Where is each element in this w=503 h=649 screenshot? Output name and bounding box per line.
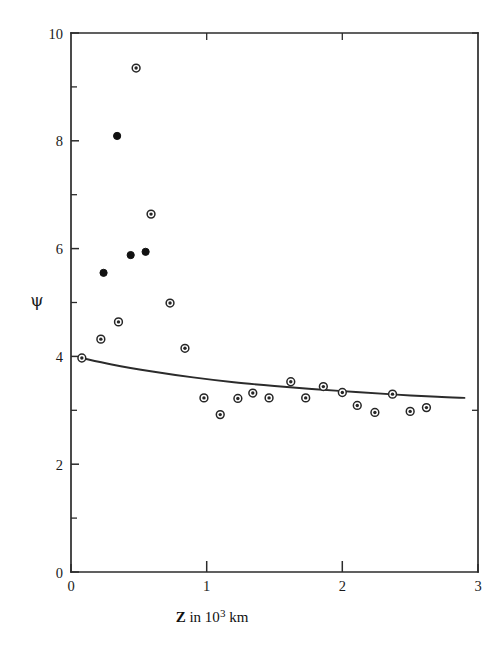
- data-point-ring: [147, 210, 155, 218]
- data-point-ring: [338, 389, 346, 397]
- data-point-ring: [78, 354, 86, 362]
- y-tick-label-4: 4: [56, 349, 64, 365]
- x-axis-title-symbol: Z: [176, 609, 186, 625]
- plot-background: [0, 0, 503, 649]
- y-tick-label-0: 0: [56, 565, 63, 581]
- data-point-ring: [406, 407, 414, 415]
- scatter-plot: 0 2 4 6 8 10 0 1 2 3 ψ Z in 103 km: [0, 0, 503, 649]
- x-axis-title: Z in 103 km: [176, 607, 249, 625]
- data-point-ring: [181, 344, 189, 352]
- svg-text:Z in 103 km: Z in 103 km: [176, 607, 249, 625]
- data-point-ring: [132, 64, 140, 72]
- data-point-ring: [319, 383, 327, 391]
- data-point-solid: [142, 248, 149, 255]
- x-axis-title-prefix: in 10: [186, 609, 220, 625]
- y-tick-label-2: 2: [56, 457, 63, 473]
- data-point-solid: [100, 269, 107, 276]
- x-tick-label-0: 0: [67, 578, 74, 594]
- y-axis-title: ψ: [30, 290, 43, 310]
- data-point-ring: [97, 335, 105, 343]
- x-tick-label-2: 2: [339, 578, 346, 594]
- data-point-ring: [216, 411, 224, 419]
- data-point-ring: [200, 394, 208, 402]
- y-tick-label-8: 8: [56, 133, 63, 149]
- data-point-ring: [371, 409, 379, 417]
- data-point-ring: [353, 402, 361, 410]
- figure-container: 0 2 4 6 8 10 0 1 2 3 ψ Z in 103 km: [0, 0, 503, 649]
- data-point-solid: [114, 132, 121, 139]
- data-point-ring: [166, 299, 174, 307]
- x-tick-label-1: 1: [203, 578, 210, 594]
- data-point-ring: [302, 394, 310, 402]
- x-axis-title-suffix: km: [225, 609, 248, 625]
- y-tick-label-6: 6: [56, 241, 63, 257]
- data-point-ring: [389, 390, 397, 398]
- x-tick-label-3: 3: [474, 578, 481, 594]
- data-point-ring: [234, 395, 242, 403]
- data-point-ring: [249, 389, 257, 397]
- data-point-ring: [287, 378, 295, 386]
- data-point-ring: [115, 318, 123, 326]
- y-tick-label-10: 10: [49, 26, 64, 42]
- data-point-ring: [423, 404, 431, 412]
- data-point-ring: [265, 394, 273, 402]
- data-point-solid: [127, 251, 134, 258]
